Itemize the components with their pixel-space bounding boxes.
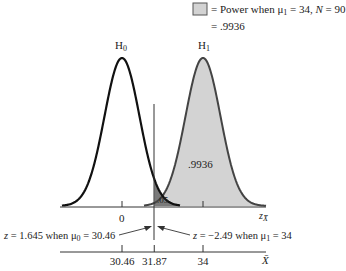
x-axis-label: X̄ [261, 254, 270, 266]
annotation-z-h1: z = −2.49 when μ1 = 34 [192, 230, 293, 243]
power-area-label: .9936 [188, 158, 213, 170]
z-tick-label-0: 0 [119, 212, 125, 224]
legend-line2: = .9936 [211, 20, 245, 32]
h0-label: H0 [115, 39, 127, 53]
x-tick-label-0: 30.46 [110, 255, 135, 267]
power-chart: = Power when μ1 = 34, N = 90 = .9936 H0 … [0, 0, 346, 271]
h1-label: H1 [198, 39, 210, 53]
legend-line1: = Power when μ1 = 34, N = 90 [211, 3, 346, 17]
z-axis-label: zX̄ [258, 210, 269, 223]
x-tick-label-2: 34 [198, 255, 210, 267]
annotation-z-h0: z = 1.645 when μ0 = 30.46 [3, 230, 115, 243]
h1-power-area [154, 58, 266, 206]
alpha-label: .05 [157, 195, 169, 205]
legend-swatch [193, 3, 207, 15]
h0-curve [62, 58, 180, 206]
arrowhead-right-icon [157, 226, 165, 231]
arrowhead-left-icon [144, 226, 152, 231]
x-tick-label-1: 31.87 [142, 255, 167, 267]
